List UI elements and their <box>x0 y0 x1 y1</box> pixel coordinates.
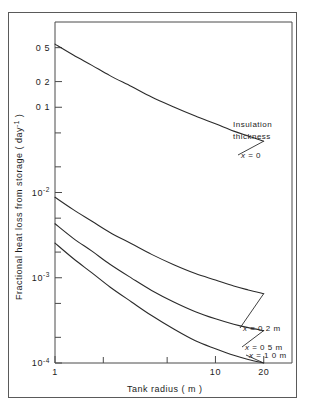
chart-plot-area: 0 50 20 110-210-310-4 11020 Insulation t… <box>0 0 309 410</box>
annotation-line-1: Insulation <box>233 120 272 129</box>
insulation-thickness-annotation: Insulation thickness <box>233 120 272 141</box>
curve-x-0-5 <box>55 224 264 331</box>
x-axis-title: Tank radius ( m ) <box>127 384 203 394</box>
y-tick-label-11: 10-4 <box>32 357 50 369</box>
x-axis-tick-labels: 11020 <box>52 367 269 377</box>
x-tick-label-1: 1 <box>52 367 58 377</box>
plot-axes <box>55 22 292 363</box>
y-axis-ticks <box>55 48 62 363</box>
series-label-x-0: x = 0 <box>240 151 261 160</box>
curve-x-0-2 <box>55 197 264 293</box>
y-axis-tick-labels: 0 50 20 110-210-310-4 <box>32 43 50 368</box>
curve-x-1-0 <box>55 243 264 363</box>
annotation-line-2: thickness <box>233 132 271 141</box>
x-axis-ticks <box>55 356 264 363</box>
series-label-x-0-2: x = 0 2 m <box>242 324 281 333</box>
series-labels: x = 0 x = 0 2 m x = 0 5 m x = 1 0 m <box>240 151 287 360</box>
series-label-x-1-0: x = 1 0 m <box>248 351 287 360</box>
y-tick-label-1: 0 2 <box>36 77 50 87</box>
figure-container: 0 50 20 110-210-310-4 11020 Insulation t… <box>0 0 309 410</box>
plot-frame <box>55 22 292 363</box>
y-tick-label-8: 10-3 <box>32 271 50 283</box>
data-curves <box>55 44 264 363</box>
x-tick-label-20: 20 <box>258 367 269 377</box>
y-tick-label-5: 10-2 <box>32 186 50 198</box>
y-axis-title: Fractional heat loss from storage ( day-… <box>13 114 24 300</box>
y-tick-label-0: 0 5 <box>36 43 50 53</box>
x-tick-label-10: 10 <box>210 367 221 377</box>
leader-line-1 <box>240 294 264 328</box>
y-tick-label-2: 0 1 <box>36 102 50 112</box>
